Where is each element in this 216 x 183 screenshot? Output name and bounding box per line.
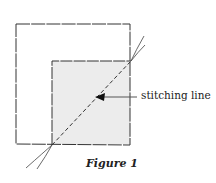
- thread-end-top: [131, 36, 145, 61]
- figure-caption: Figure 1: [86, 157, 138, 170]
- stitching-line-label: stitching line: [141, 89, 211, 101]
- thread-end-bottom: [26, 145, 52, 169]
- inner-shaded-square: [52, 61, 130, 144]
